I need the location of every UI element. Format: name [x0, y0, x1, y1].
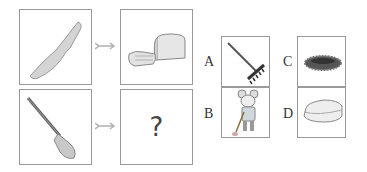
panel-knife [19, 9, 92, 85]
rake-icon [222, 37, 271, 88]
option-c-nest[interactable] [297, 36, 346, 87]
question-mark: ? [121, 112, 192, 142]
arrow-icon [95, 42, 117, 50]
option-label-a: A [204, 54, 214, 70]
panel-sliced-bread [120, 9, 193, 85]
knife-icon [20, 10, 93, 86]
option-a-rake[interactable] [221, 36, 270, 87]
sandwich-icon [298, 88, 347, 139]
option-d-sandwich[interactable] [297, 87, 346, 138]
option-label-c: C [283, 54, 292, 70]
mouse-sweeping-icon [222, 88, 271, 139]
arrow-icon [95, 122, 117, 130]
sliced-bread-icon [121, 10, 194, 86]
shovel-icon [20, 90, 93, 166]
option-label-b: B [204, 106, 213, 122]
option-label-d: D [283, 106, 293, 122]
panel-shovel [19, 89, 92, 165]
nest-icon [298, 37, 347, 88]
option-b-mouse-sweeping[interactable] [221, 87, 270, 138]
panel-answer-blank: ? [120, 89, 193, 165]
